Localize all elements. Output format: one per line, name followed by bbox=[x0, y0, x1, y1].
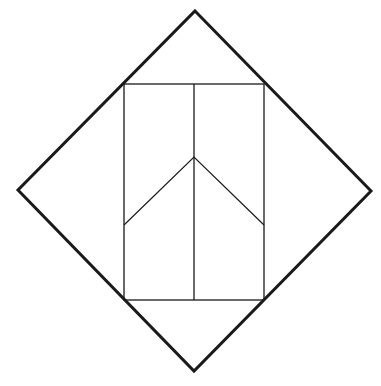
diagram-canvas bbox=[0, 0, 381, 386]
geometric-figure bbox=[0, 0, 381, 386]
